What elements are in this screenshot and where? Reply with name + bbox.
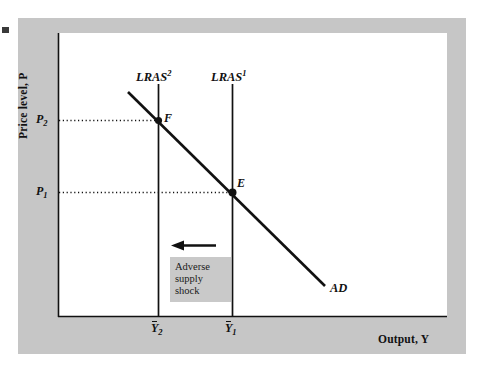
- figure-container: Price level, P Output, Y LRAS2 LRAS1 AD …: [0, 0, 484, 371]
- x-tick-label-y1: Y1: [225, 322, 237, 337]
- ad-label: AD: [330, 282, 347, 295]
- point-e-marker: [229, 189, 237, 197]
- point-e-label: E: [237, 177, 245, 189]
- point-f-label: F: [164, 112, 172, 124]
- x-tick-y2-base: Y: [151, 322, 158, 334]
- shock-note-line-1: Adverse: [175, 261, 227, 273]
- shift-arrow-head: [171, 241, 184, 251]
- lras1-label-base: LRAS: [211, 70, 242, 84]
- shock-note-line-2: supply: [175, 273, 227, 285]
- x-tick-y1-base: Y: [225, 322, 232, 334]
- lras2-label-base: LRAS: [136, 70, 167, 84]
- lras2-label: LRAS2: [136, 69, 172, 84]
- lras1-label: LRAS1: [211, 69, 247, 84]
- x-tick-label-y2: Y2: [151, 322, 163, 337]
- y-tick-label-p1: P1: [36, 185, 48, 200]
- lras1-label-superscript: 1: [242, 68, 246, 78]
- x-axis-title: Output, Y: [378, 334, 429, 346]
- y-tick-label-p2: P2: [36, 113, 48, 128]
- y-tick-p2-subscript: 2: [43, 118, 47, 128]
- x-tick-y2-subscript: 2: [158, 327, 162, 337]
- y-tick-p1-subscript: 1: [43, 190, 47, 200]
- shock-note-line-3: shock: [175, 285, 227, 297]
- x-tick-y1-subscript: 1: [232, 327, 236, 337]
- lras2-label-superscript: 2: [167, 68, 171, 78]
- y-axis-title: Price level, P: [18, 58, 30, 154]
- adverse-supply-shock-note: Adverse supply shock: [170, 257, 231, 302]
- point-f-marker: [155, 117, 162, 124]
